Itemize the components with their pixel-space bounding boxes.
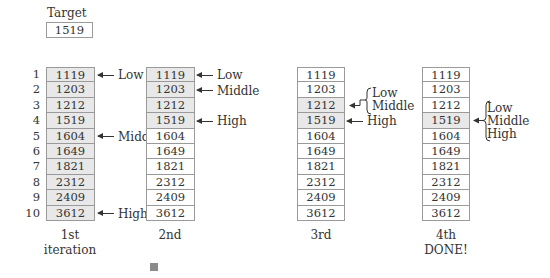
array-cell: 1604 (422, 129, 470, 144)
row-index: 1 (14, 67, 40, 82)
array-cell: 2409 (422, 190, 470, 205)
brace-labels: Low Middle (372, 87, 414, 113)
array-cell: 2312 (146, 175, 195, 190)
small-square-marker-icon (150, 263, 158, 271)
array-cell: 1119 (46, 67, 95, 82)
array-cell: 1519 (146, 113, 195, 128)
array-cell: 1119 (422, 67, 470, 82)
iteration-caption: 2nd (130, 228, 210, 243)
row-index: 10 (14, 206, 40, 221)
array-cell: 1519 (46, 113, 95, 128)
array-iteration-1: 1119 1203 1212 1519 1604 1649 1821 2312 … (46, 67, 95, 221)
array-iteration-4: 1119 1203 1212 1519 1604 1649 1821 2312 … (422, 67, 470, 221)
array-cell: 1212 (46, 98, 95, 113)
array-cell: 1212 (146, 98, 195, 113)
row-index: 8 (14, 175, 40, 190)
target-label: Target (47, 6, 87, 20)
array-cell: 1203 (297, 82, 345, 97)
row-index: 6 (14, 144, 40, 159)
row-index: 4 (14, 113, 40, 128)
array-cell: 1821 (297, 159, 345, 174)
pointer-high: High (347, 114, 397, 128)
array-cell: 1119 (297, 67, 345, 82)
array-cell: 1604 (146, 129, 195, 144)
array-cell: 1212 (297, 98, 345, 113)
array-cell: 1649 (46, 144, 95, 159)
row-index: 9 (14, 190, 40, 205)
array-cell: 2409 (297, 190, 345, 205)
array-cell: 1821 (422, 159, 470, 174)
array-cell: 2409 (46, 190, 95, 205)
array-cell: 2409 (146, 190, 195, 205)
array-cell: 2312 (422, 175, 470, 190)
array-cell: 1203 (46, 82, 95, 97)
array-cell: 2312 (46, 175, 95, 190)
array-cell: 1649 (146, 144, 195, 159)
arrow-left-icon (197, 90, 213, 91)
array-cell: 3612 (297, 206, 345, 221)
array-cell: 3612 (46, 206, 95, 221)
array-cell: 1203 (422, 82, 470, 97)
pointer-low: Low (98, 68, 143, 82)
arrow-left-icon (197, 121, 213, 122)
array-cell: 3612 (146, 206, 195, 221)
arrow-left-icon (98, 75, 114, 76)
array-cell: 1649 (422, 144, 470, 159)
row-index: 5 (14, 129, 40, 144)
iteration-caption: 3rd (281, 228, 361, 243)
arrow-left-icon (197, 75, 213, 76)
array-cell: 1203 (146, 82, 195, 97)
row-index: 2 (14, 82, 40, 97)
array-cell: 1212 (422, 98, 470, 113)
iteration-caption: 1st iteration (30, 228, 110, 258)
array-cell: 1519 (422, 113, 470, 128)
array-cell: 1119 (146, 67, 195, 82)
array-iteration-3: 1119 1203 1212 1519 1604 1649 1821 2312 … (297, 67, 345, 221)
array-cell: 3612 (422, 206, 470, 221)
arrow-left-icon (98, 213, 114, 214)
array-cell: 1519 (297, 113, 345, 128)
array-cell: 1821 (146, 159, 195, 174)
pointer-low: Low (197, 68, 242, 82)
iteration-caption: 4th DONE! (406, 228, 486, 258)
pointer-high: High (98, 207, 148, 221)
target-value-box: 1519 (46, 22, 93, 38)
pointer-high: High (197, 114, 247, 128)
array-cell: 2312 (297, 175, 345, 190)
array-cell: 1604 (297, 129, 345, 144)
brace-labels: Low Middle High (487, 102, 529, 141)
pointer-middle: Middle (197, 84, 259, 98)
array-cell: 1649 (297, 144, 345, 159)
arrow-left-icon (98, 136, 114, 137)
row-index: 3 (14, 98, 40, 113)
array-cell: 1604 (46, 129, 95, 144)
row-index: 7 (14, 159, 40, 174)
arrow-left-icon (347, 121, 363, 122)
array-iteration-2: 1119 1203 1212 1519 1604 1649 1821 2312 … (146, 67, 195, 221)
array-cell: 1821 (46, 159, 95, 174)
